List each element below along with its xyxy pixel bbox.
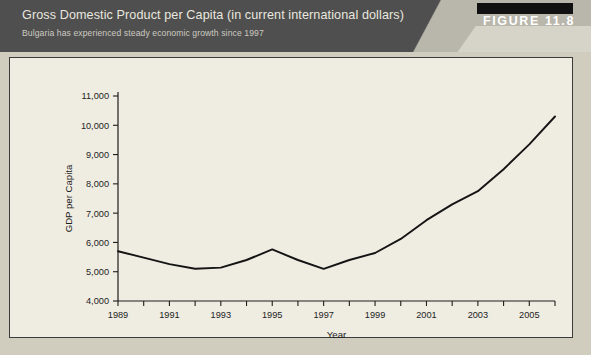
plot-area: 4,0005,0006,0007,0008,0009,00010,00011,0… (10, 58, 574, 339)
y-axis-tick-label: 6,000 (86, 238, 109, 248)
x-axis-tick-label: 1991 (159, 310, 179, 320)
figure-subtitle: Bulgaria has experienced steady economic… (22, 28, 264, 38)
y-axis-tick-label: 8,000 (86, 179, 109, 189)
x-axis-title: Year (327, 329, 347, 339)
y-axis-tick-label: 11,000 (82, 91, 109, 101)
x-axis-tick-label: 1999 (365, 310, 385, 320)
line-chart: 4,0005,0006,0007,0008,0009,00010,00011,0… (10, 58, 574, 339)
y-axis-tick-label: 7,000 (86, 209, 109, 219)
y-axis-title: GDP per Capita (63, 164, 74, 232)
figure-header-banner: Gross Domestic Product per Capita (in cu… (0, 0, 591, 52)
y-axis-tick-label: 9,000 (86, 150, 109, 160)
y-axis-tick-label: 4,000 (86, 296, 109, 306)
x-axis-tick-label: 1993 (211, 310, 231, 320)
x-axis-tick-label: 2003 (468, 310, 488, 320)
x-axis-tick-label: 1997 (313, 310, 333, 320)
chart-panel: 4,0005,0006,0007,0008,0009,00010,00011,0… (9, 57, 573, 338)
figure-container: Gross Domestic Product per Capita (in cu… (0, 0, 591, 355)
banner-black-bar (477, 3, 573, 14)
x-axis-tick-label: 1989 (108, 310, 128, 320)
figure-number-label: FIGURE 11.8 (483, 14, 575, 28)
x-axis-tick-label: 2005 (519, 310, 539, 320)
y-axis-tick-label: 5,000 (86, 267, 109, 277)
data-series-line (118, 117, 555, 269)
x-axis-tick-label: 1995 (262, 310, 282, 320)
x-axis-tick-label: 2001 (416, 310, 436, 320)
banner-diagonal-wedge-light (361, 26, 591, 52)
y-axis-tick-label: 10,000 (81, 121, 109, 131)
figure-title: Gross Domestic Product per Capita (in cu… (22, 8, 404, 22)
